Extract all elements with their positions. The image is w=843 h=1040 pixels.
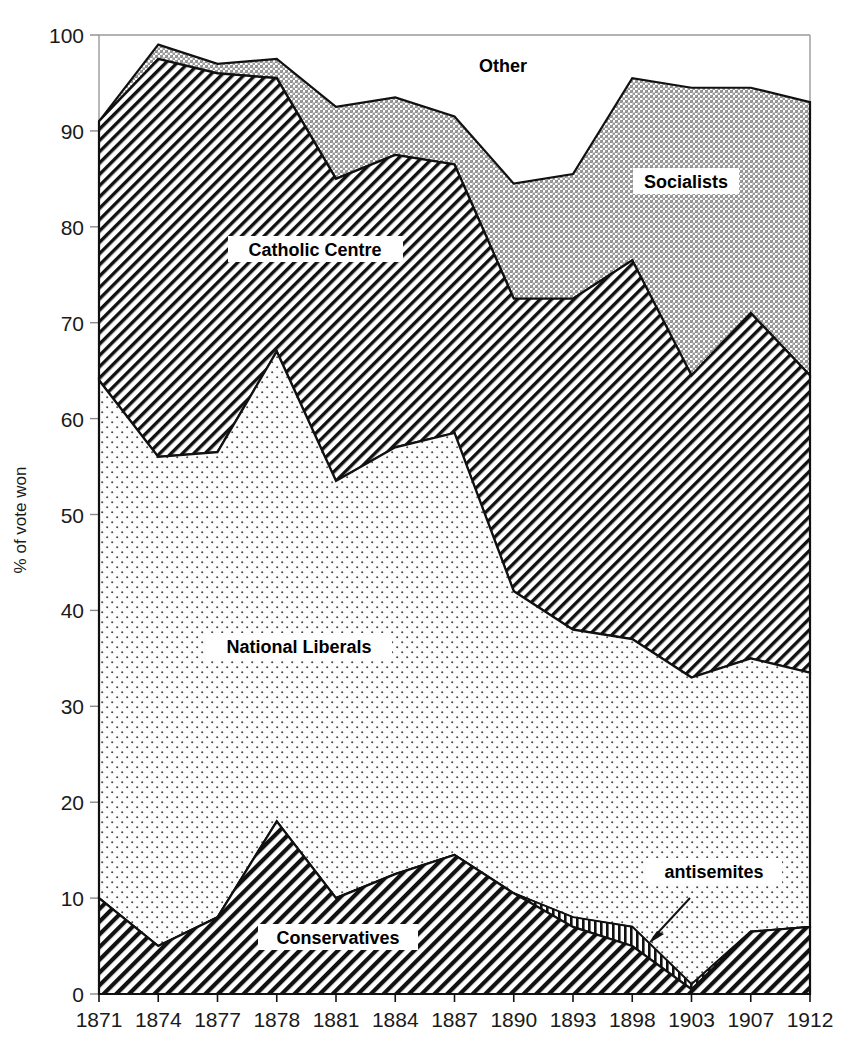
antisemites-annotation-text: antisemites	[664, 862, 763, 882]
series-label-socialists-text: Socialists	[644, 172, 728, 192]
y-tick-label: 0	[72, 983, 84, 1006]
series-label-catholic-centre-text: Catholic Centre	[248, 240, 381, 260]
series-label-other-text: Other	[479, 56, 527, 76]
x-tick-label: 1890	[490, 1008, 537, 1031]
x-tick-label: 1893	[550, 1008, 597, 1031]
chart-figure: % of vote won 0102030405060708090100 187…	[0, 0, 843, 1040]
series-label-conservatives-text: Conservatives	[276, 928, 399, 948]
y-tick-label: 60	[61, 408, 84, 431]
x-tick-label: 1874	[135, 1008, 182, 1031]
x-tick-label: 1871	[76, 1008, 123, 1031]
x-axis-ticks	[99, 994, 810, 1002]
x-axis-tick-labels: 1871187418771878188118841887189018931898…	[76, 1008, 834, 1031]
series-label-conservatives: Conservatives	[258, 924, 418, 950]
y-tick-label: 90	[61, 120, 84, 143]
y-tick-label: 80	[61, 216, 84, 239]
y-tick-label: 20	[61, 791, 84, 814]
stacked-area-chart: % of vote won 0102030405060708090100 187…	[0, 0, 843, 1040]
y-axis-ticks	[90, 35, 99, 994]
series-label-national-liberals: National Liberals	[206, 633, 392, 659]
series-label-national-liberals-text: National Liberals	[226, 637, 371, 657]
y-tick-label: 40	[61, 599, 84, 622]
y-tick-label: 10	[61, 887, 84, 910]
y-tick-label: 100	[49, 24, 84, 47]
series-label-socialists: Socialists	[633, 168, 739, 194]
x-tick-label: 1907	[727, 1008, 774, 1031]
y-axis-tick-labels: 0102030405060708090100	[49, 24, 84, 1006]
x-tick-label: 1884	[372, 1008, 419, 1031]
y-tick-label: 50	[61, 504, 84, 527]
x-tick-label: 1912	[787, 1008, 834, 1031]
series-label-catholic-centre: Catholic Centre	[228, 236, 403, 262]
x-tick-label: 1903	[668, 1008, 715, 1031]
x-tick-label: 1878	[253, 1008, 300, 1031]
series-label-other: Other	[466, 54, 540, 78]
x-tick-label: 1898	[609, 1008, 656, 1031]
x-tick-label: 1887	[431, 1008, 478, 1031]
y-tick-label: 70	[61, 312, 84, 335]
x-tick-label: 1881	[313, 1008, 360, 1031]
x-tick-label: 1877	[194, 1008, 241, 1031]
y-tick-label: 30	[61, 695, 84, 718]
y-axis-title: % of vote won	[11, 467, 30, 574]
